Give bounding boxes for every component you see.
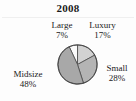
slice-label-large-name: Large (42, 20, 82, 30)
slice-label-small: Small 28% (98, 63, 136, 83)
slice-label-small-value: 28% (98, 73, 136, 83)
slice-label-midsize-value: 48% (2, 79, 54, 89)
slice-label-large-value: 7% (42, 30, 82, 40)
slice-label-luxury: Luxury 17% (80, 20, 125, 40)
slice-label-small-name: Small (98, 63, 136, 73)
slice-label-midsize-name: Midsize (2, 69, 54, 79)
pie-svg (57, 44, 98, 85)
slice-label-large: Large 7% (42, 20, 82, 40)
title-divider (2, 17, 134, 18)
slice-label-luxury-name: Luxury (80, 20, 125, 30)
chart-title: 2008 (0, 2, 136, 15)
slice-label-midsize: Midsize 48% (2, 69, 54, 89)
slice-label-luxury-value: 17% (80, 30, 125, 40)
pie-graphic (57, 44, 98, 85)
pie-chart-figure: 2008 Large 7% Luxury 17% Small 28% Midsi… (0, 0, 136, 101)
